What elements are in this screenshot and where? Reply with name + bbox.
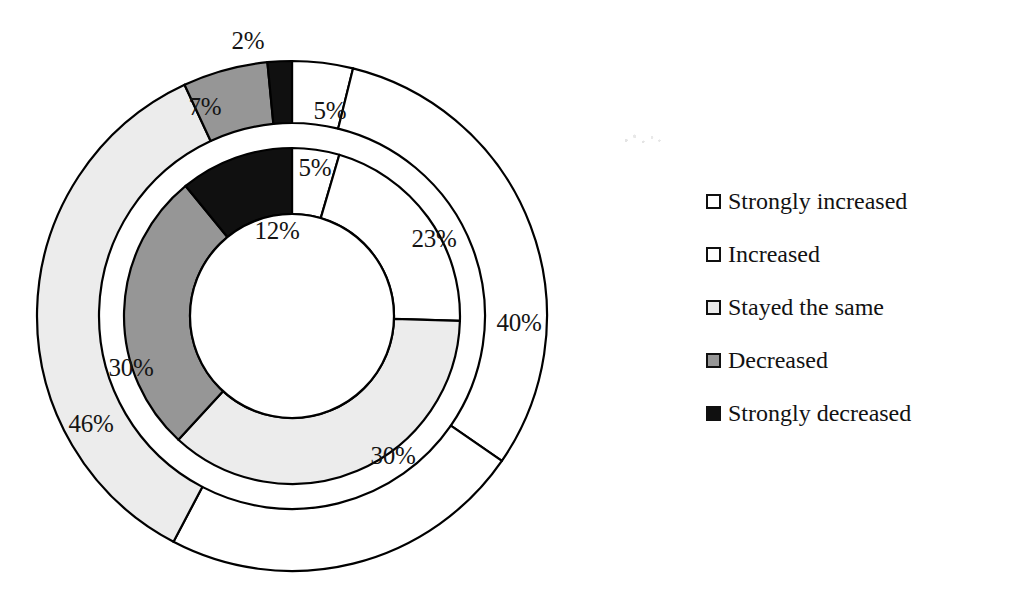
- doughnut-svg: [0, 0, 620, 595]
- scan-artifact: [618, 132, 664, 146]
- legend-item-strongly-increased[interactable]: Strongly increased: [706, 188, 1006, 214]
- value-label-inner-7: 30%: [370, 443, 415, 468]
- legend-item-stayed-the-same[interactable]: Stayed the same: [706, 294, 1006, 320]
- legend: Strongly increased Increased Stayed the …: [706, 188, 1006, 426]
- legend-label-decreased: Decreased: [728, 348, 828, 372]
- value-label-outer-2: 5%: [314, 98, 347, 123]
- legend-item-increased[interactable]: Increased: [706, 241, 1006, 267]
- value-label-outer-4: 46%: [68, 411, 113, 436]
- legend-swatch-stayed-the-same: [706, 300, 721, 315]
- legend-label-increased: Increased: [728, 242, 820, 266]
- legend-swatch-strongly-decreased: [706, 406, 721, 421]
- doughnut-chart: 2%7%5%40%46%5%23%30%30%12%: [0, 0, 620, 595]
- value-label-inner-9: 12%: [254, 218, 299, 243]
- value-label-outer-0: 2%: [232, 28, 265, 53]
- chart-canvas: 2%7%5%40%46%5%23%30%30%12% Strongly incr…: [0, 0, 1021, 595]
- legend-label-stayed-the-same: Stayed the same: [728, 295, 884, 319]
- center-hole: [190, 214, 394, 418]
- legend-swatch-strongly-increased: [706, 194, 721, 209]
- value-label-outer-3: 40%: [496, 310, 541, 335]
- legend-swatch-decreased: [706, 353, 721, 368]
- legend-label-strongly-increased: Strongly increased: [728, 189, 907, 213]
- legend-label-strongly-decreased: Strongly decreased: [728, 401, 911, 425]
- value-label-outer-1: 7%: [189, 94, 222, 119]
- legend-item-strongly-decreased[interactable]: Strongly decreased: [706, 400, 1006, 426]
- legend-swatch-increased: [706, 247, 721, 262]
- legend-item-decreased[interactable]: Decreased: [706, 347, 1006, 373]
- value-label-inner-8: 30%: [108, 355, 153, 380]
- value-label-inner-6: 23%: [411, 226, 456, 251]
- value-label-inner-5: 5%: [299, 155, 332, 180]
